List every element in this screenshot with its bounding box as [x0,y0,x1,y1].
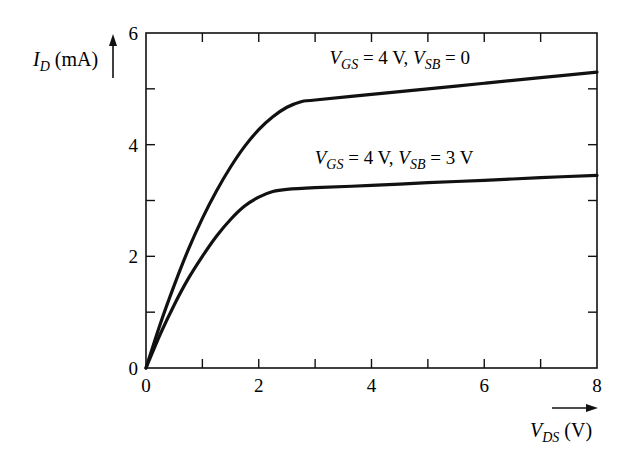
curve-vsb-3v [146,175,597,368]
x-label-unit: (V) [559,419,592,442]
svg-text:VDS (V): VDS (V) [530,419,592,445]
plot-border [146,33,597,368]
x-label-sub: DS [541,430,559,445]
x-tick-label: 4 [367,375,377,396]
x-tick-label: 0 [141,375,151,396]
y-tick-label: 0 [129,358,139,379]
y-label-unit: (mA) [50,48,98,71]
x-tick-label: 2 [254,375,264,396]
y-tick-label: 2 [129,246,139,267]
x-axis-label: VDS (V) [530,404,598,445]
annotation-vsb-0: VGS = 4 V, VSB = 0 [329,47,470,72]
y-label-sub: D [39,59,50,74]
curve-vsb-0 [146,72,597,368]
svg-text:ID (mA): ID (mA) [32,48,98,74]
annotation-vsb-3v: VGS = 4 V, VSB = 3 V [315,147,474,172]
iv-curves [146,72,597,368]
plot-frame [146,33,597,368]
x-arrow-icon [552,404,598,412]
axis-ticks [146,33,597,368]
curve-annotations: VGS = 4 V, VSB = 0VGS = 4 V, VSB = 3 V [315,47,474,173]
y-tick-label: 6 [129,23,139,44]
x-tick-label: 6 [480,375,490,396]
y-axis-label: ID (mA) [32,34,117,78]
x-tick-label: 8 [592,375,602,396]
y-tick-label: 4 [129,135,139,156]
mosfet-iv-chart: 024680246 VGS = 4 V, VSB = 0VGS = 4 V, V… [0,0,627,461]
y-arrow-icon [109,34,117,78]
